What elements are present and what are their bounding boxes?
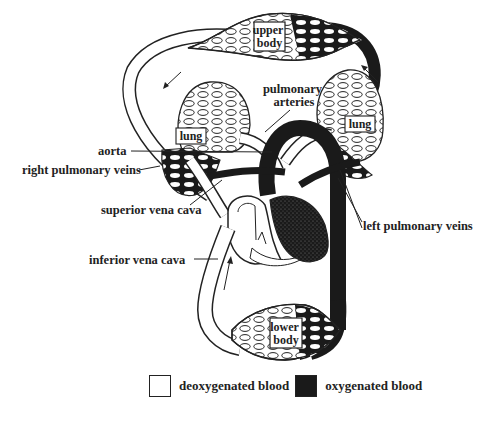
inferior-vena-cava-label: inferior vena cava [89,253,186,267]
lung-right-label: lung [349,117,372,131]
aorta-label: aorta [98,144,127,158]
legend-oxygenated-label: oxygenated blood [325,378,422,394]
superior-vena-cava-label: superior vena cava [101,203,202,217]
circulatory-system-diagram: upper body lung lung [0,0,486,425]
legend-deoxygenated-label: deoxygenated blood [179,378,289,394]
right-pulmonary-veins-leader [139,166,160,170]
flow-arrow-ivc [224,260,230,290]
legend: deoxygenated blood oxygenated blood [149,373,428,399]
heart [228,196,328,266]
left-pulmonary-veins-label: left pulmonary veins [363,219,473,233]
deoxygenated-swatch [149,375,171,397]
right-pulmonary-veins-label: right pulmonary veins [22,163,141,177]
oxygenated-swatch [295,375,317,397]
flow-arrow-upper-left [166,72,181,86]
pulmonary-arteries-label: pulmonary arteries [263,82,325,109]
lower-body-label: lower body [270,320,301,347]
lung-left-label: lung [180,129,203,143]
upper-body-label: upper body [253,23,286,50]
